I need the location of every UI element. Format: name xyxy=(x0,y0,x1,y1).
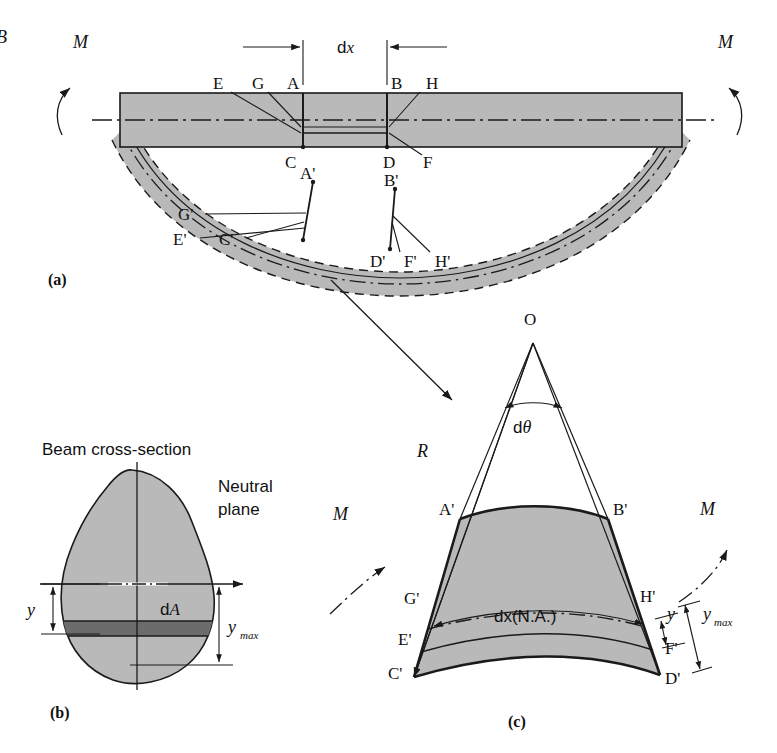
connector-arrow-a-to-c xyxy=(331,280,452,400)
y-label-b: y xyxy=(25,600,35,620)
label-c: C xyxy=(285,153,296,172)
label-c-aprime: A' xyxy=(439,500,454,519)
panel-c: O R dθ A' B' G' H' E' F' C' D' dx(N.A.) … xyxy=(330,310,732,731)
panel-b: Beam cross-section Neutral plane y dA y xyxy=(25,440,273,722)
caption-c: (c) xyxy=(508,713,526,731)
panel-a: dx E G A B H C D F xyxy=(0,27,742,400)
neutral-plane-label-line1: Neutral xyxy=(218,477,273,496)
ymax-ext-bottom-c xyxy=(692,667,712,673)
label-a: A xyxy=(287,74,300,93)
moment-arc-right-a xyxy=(729,88,742,135)
label-d: D xyxy=(383,153,395,172)
deformed-beam-fill xyxy=(112,122,690,296)
deformed-section-bd xyxy=(390,189,395,249)
point-dprime-dot xyxy=(388,247,392,251)
label-radius-r: R xyxy=(416,441,428,461)
leader-gprime xyxy=(205,213,306,214)
label-eprime: E' xyxy=(173,230,186,249)
ymax-dim-arrow-c xyxy=(685,605,700,669)
ymax-label-c: y xyxy=(701,604,711,624)
label-gprime: G' xyxy=(178,205,193,224)
label-g: G xyxy=(252,74,264,93)
deformed-beam-a xyxy=(112,122,690,296)
point-cprime-dot xyxy=(301,238,305,242)
cross-section-title: Beam cross-section xyxy=(42,440,191,459)
caption-a: (a) xyxy=(48,271,67,289)
label-cprime: C' xyxy=(219,230,233,249)
moment-arc-right-c xyxy=(679,550,727,602)
deformed-element-a xyxy=(301,180,397,251)
y-label-c: y xyxy=(665,604,675,624)
label-b: B xyxy=(391,74,402,93)
dtheta-arc xyxy=(505,403,562,408)
moment-label-left-c: M xyxy=(332,504,349,524)
dtheta-label: dθ xyxy=(513,417,531,437)
label-dprime: D' xyxy=(370,252,385,271)
label-c-bprime: B' xyxy=(613,500,627,519)
leader-cprime xyxy=(246,222,304,238)
ymax-ext-top-c xyxy=(678,601,700,607)
label-origin-o: O xyxy=(524,310,536,329)
undeformed-beam-a xyxy=(92,93,718,147)
label-fprime: F' xyxy=(404,252,417,271)
deformed-layer-gh xyxy=(126,127,676,278)
moment-arc-left-a xyxy=(57,88,70,135)
moment-label-left-a: M xyxy=(72,32,89,52)
point-c-dot xyxy=(301,145,305,149)
label-aprime: A' xyxy=(300,164,315,183)
sector-fill xyxy=(414,506,660,677)
moment-label-right-c: M xyxy=(699,499,716,519)
leader-fprime xyxy=(392,222,400,252)
label-c-hprime: H' xyxy=(640,587,655,606)
y-dim-arrow-c xyxy=(661,621,666,645)
moment-arc-left-c xyxy=(330,567,385,614)
radius-line-right-inner xyxy=(533,343,608,519)
label-h: H xyxy=(426,74,438,93)
na-label: dx(N.A.) xyxy=(494,607,556,626)
label-c-cprime: C' xyxy=(388,664,402,683)
label-c-eprime: E' xyxy=(398,630,411,649)
cross-section-blob xyxy=(61,470,214,684)
label-hprime: H' xyxy=(435,252,450,271)
figure-canvas: dx E G A B H C D F xyxy=(0,0,777,753)
deformed-section-ac xyxy=(303,182,313,240)
label-c-gprime: G' xyxy=(404,589,419,608)
point-d-dot xyxy=(385,145,389,149)
ymax-sub-b: max xyxy=(240,629,258,641)
label-c-fprime: F' xyxy=(665,639,678,658)
figure-root: dx E G A B H C D F xyxy=(0,0,777,753)
dx-label: dx xyxy=(337,38,354,57)
caption-b: (b) xyxy=(50,704,70,722)
edge-fragment-label: B xyxy=(0,27,7,47)
label-f: F xyxy=(423,153,432,172)
label-c-dprime: D' xyxy=(665,669,680,688)
neutral-plane-label-line2: plane xyxy=(218,500,260,519)
ymax-sub-c: max xyxy=(714,616,732,628)
moment-label-right-a: M xyxy=(717,32,734,52)
dA-label: dA xyxy=(160,600,180,619)
deformed-neutral-axis xyxy=(121,131,681,284)
label-e: E xyxy=(213,74,223,93)
ymax-label-b: y xyxy=(226,617,236,637)
label-bprime: B' xyxy=(384,171,398,190)
